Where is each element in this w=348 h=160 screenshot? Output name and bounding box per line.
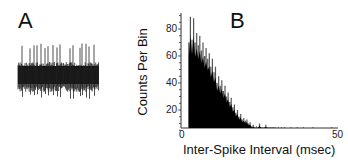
y-tick-20: 20 bbox=[166, 104, 177, 115]
y-tick-80: 80 bbox=[166, 23, 177, 34]
x-axis-label: Inter-Spike Interval (msec) bbox=[183, 142, 335, 157]
x-tick-50: 50 bbox=[332, 129, 343, 140]
y-tick-60: 60 bbox=[166, 50, 177, 61]
y-axis-label: Counts Per Bin bbox=[135, 28, 150, 115]
x-tick-0: 0 bbox=[179, 129, 185, 140]
y-tick-40: 40 bbox=[166, 77, 177, 88]
